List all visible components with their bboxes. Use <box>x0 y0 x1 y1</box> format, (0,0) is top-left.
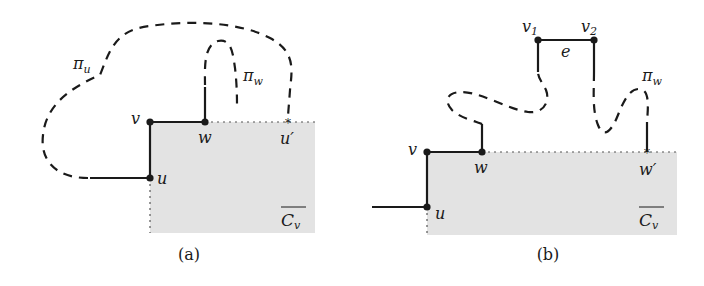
caption-a: (a) <box>178 245 200 264</box>
label-v-a: v <box>131 109 140 128</box>
vertex-v-a <box>146 118 153 125</box>
label-u-b: u <box>435 204 445 223</box>
path-w-to-v1 <box>447 72 547 124</box>
vertex-u-b <box>423 203 430 210</box>
figure-canvas: * v w u u′ πu πw Cv (a) <box>0 0 704 286</box>
label-pi-w-a: πw <box>242 66 264 88</box>
vertex-w-a <box>201 118 208 125</box>
label-w-prime: w′ <box>639 160 657 179</box>
vertex-u-a <box>146 174 153 181</box>
label-v-b: v <box>408 140 417 159</box>
label-w-b: w <box>474 158 488 177</box>
star-icon-w-prime: * <box>644 145 651 160</box>
star-icon-u-prime: * <box>285 115 292 130</box>
label-u-prime: u′ <box>280 129 294 148</box>
label-v2: v2 <box>581 17 597 38</box>
panel-a: * v w u u′ πu πw Cv (a) <box>43 23 315 264</box>
label-w-a: w <box>198 128 212 147</box>
caption-b: (b) <box>537 245 560 264</box>
label-pi-w-b: πw <box>641 66 663 88</box>
path-pi-w-b <box>594 72 648 132</box>
panel-b: * v w u w′ v1 v2 e πw Cv (b) <box>372 17 677 264</box>
label-pi-u: πu <box>72 54 91 76</box>
label-edge-e: e <box>561 42 570 61</box>
label-u-a: u <box>157 169 167 188</box>
label-v1: v1 <box>522 17 538 38</box>
path-pi-w-a <box>205 41 237 108</box>
vertex-w-b <box>478 148 485 155</box>
vertex-v-b <box>423 148 430 155</box>
